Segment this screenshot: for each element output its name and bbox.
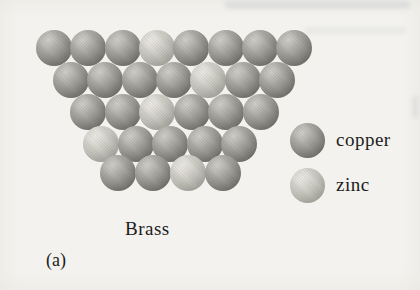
copper-atom	[259, 62, 295, 98]
legend-label-copper: copper	[336, 129, 391, 151]
copper-atom	[156, 62, 192, 98]
zinc-atom	[139, 30, 175, 66]
copper-atom	[105, 30, 141, 66]
copper-atom	[87, 62, 123, 98]
copper-atom	[208, 30, 244, 66]
zinc-atom	[139, 94, 175, 130]
copper-atom	[70, 30, 106, 66]
legend-label-zinc: zinc	[336, 174, 370, 196]
copper-atom	[242, 30, 278, 66]
copper-atom	[173, 30, 209, 66]
copper-atom	[225, 62, 261, 98]
zinc-atom	[170, 155, 206, 191]
copper-sphere-swatch	[290, 123, 325, 158]
copper-atom	[135, 155, 171, 191]
copper-atom	[53, 62, 89, 98]
copper-atom	[36, 30, 72, 66]
copper-atom	[100, 155, 136, 191]
figure-brass-alloy: copper zinc Brass (a)	[0, 0, 420, 290]
copper-atom	[70, 94, 106, 130]
figure-caption: Brass	[125, 218, 170, 240]
copper-atom	[208, 94, 244, 130]
figure-part-label: (a)	[46, 250, 66, 271]
copper-atom	[122, 62, 158, 98]
zinc-sphere-swatch	[290, 168, 325, 203]
copper-atom	[174, 94, 210, 130]
copper-atom	[243, 94, 279, 130]
copper-atom	[205, 155, 241, 191]
copper-atom	[105, 94, 141, 130]
legend: copper zinc	[290, 123, 410, 213]
copper-atom	[276, 30, 312, 66]
zinc-atom	[190, 62, 226, 98]
